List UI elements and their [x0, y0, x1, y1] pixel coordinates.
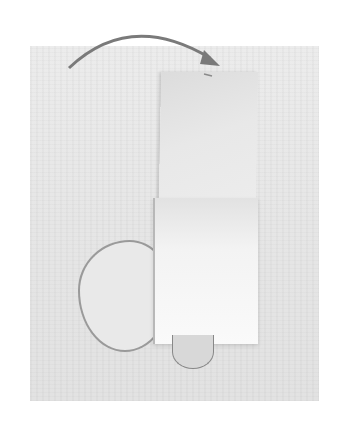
curved-arrow-icon: [0, 0, 346, 436]
